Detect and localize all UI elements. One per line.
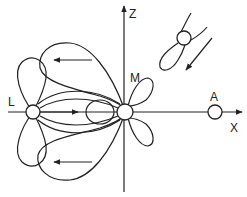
atom-a-label: A (210, 90, 218, 104)
z-axis-label: Z (129, 7, 136, 21)
large-upper-lobe (40, 43, 124, 108)
atom-a (208, 105, 222, 119)
x-axis-label: X (230, 121, 238, 135)
diagram-svg: Z X L M A (0, 0, 247, 197)
atom-l-label: L (8, 95, 15, 109)
inset-tilted-atom (160, 13, 212, 70)
atom-l (26, 105, 40, 119)
atom-m (117, 104, 133, 120)
orbital-diagram: Z X L M A (0, 0, 247, 197)
atom-m-label: M (130, 71, 140, 85)
